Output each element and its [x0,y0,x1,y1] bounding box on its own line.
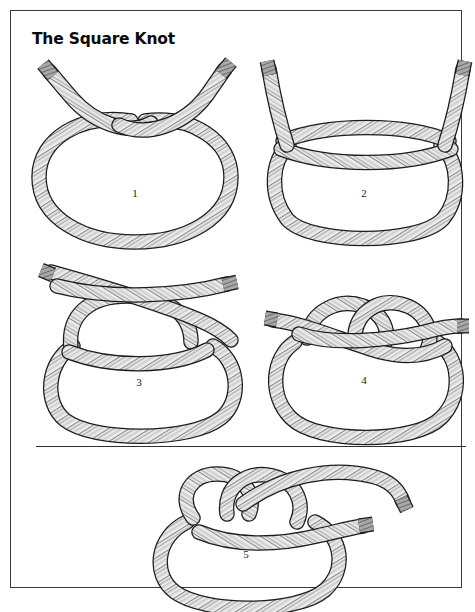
step-4-illustration: 4 [259,276,474,446]
rope-end-whipping-right [223,282,237,285]
step-3-illustration: 3 [31,256,256,441]
step-number-1: 1 [125,187,145,199]
page-frame: The Square Knot [10,10,462,588]
step-number-3: 3 [129,376,149,388]
rope-end-whipping-long [401,498,407,510]
rope-end-whipping-left [265,318,277,320]
rope-end-whipping-short [359,524,373,526]
illustration-page: The Square Knot [0,0,475,612]
page-title: The Square Knot [32,30,175,48]
rope-end-whipping-right [462,61,465,75]
rope-end-whipping-left [267,61,270,75]
step-number-4: 4 [354,374,374,386]
step-2-illustration: 2 [259,49,474,249]
rope-drawing-step-4 [265,303,469,438]
step-5-illustration: 5 [131,456,421,606]
rope-end-whipping-left [41,270,53,275]
rope-drawing-step-2 [267,61,465,239]
step-number-2: 2 [354,187,374,199]
rope-drawing-step-1 [39,62,231,242]
rope-drawing-step-5 [160,472,407,608]
rope-end-whipping-right [221,62,231,74]
step-number-5: 5 [236,548,256,560]
rope-end-whipping-left [43,64,53,76]
step-1-illustration: 1 [23,49,253,249]
rope-drawing-step-3 [41,270,237,436]
section-divider [36,446,466,447]
